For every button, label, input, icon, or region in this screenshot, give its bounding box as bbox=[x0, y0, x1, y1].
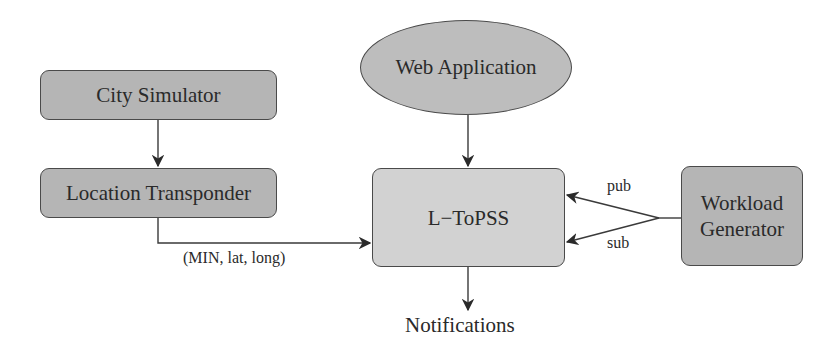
edge-label-pub: pub bbox=[607, 177, 631, 195]
notifications-label: Notifications bbox=[405, 313, 515, 338]
location-transponder-node: Location Transponder bbox=[40, 168, 277, 218]
l-topss-node: L−ToPSS bbox=[372, 168, 565, 267]
web-application-node: Web Application bbox=[360, 20, 572, 115]
workload-generator-label-line2: Generator bbox=[700, 216, 784, 242]
edge-workload-pub bbox=[567, 195, 659, 218]
edge-label-min-lat-long: (MIN, lat, long) bbox=[183, 249, 285, 267]
city-simulator-node: City Simulator bbox=[40, 70, 277, 120]
workload-generator-label-line1: Workload bbox=[701, 190, 783, 216]
location-transponder-label: Location Transponder bbox=[66, 180, 251, 206]
edge-transponder-to-ltopss bbox=[158, 218, 370, 243]
edge-label-sub: sub bbox=[607, 234, 629, 252]
web-application-label: Web Application bbox=[395, 55, 536, 80]
workload-generator-node: Workload Generator bbox=[681, 166, 803, 266]
l-topss-label: L−ToPSS bbox=[428, 205, 510, 231]
city-simulator-label: City Simulator bbox=[96, 82, 220, 108]
